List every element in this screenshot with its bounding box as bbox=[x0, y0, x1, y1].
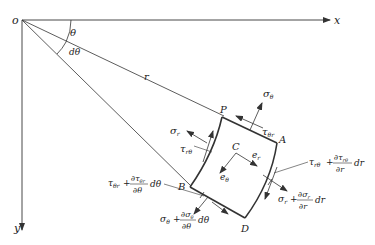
sigma-r-plus-expression: σr + ∂σr ∂r dr bbox=[278, 190, 326, 211]
bottom-face-stresses: τθr + ∂τθr ∂θ dθ σθ + ∂σθ ∂θ dθ bbox=[108, 174, 228, 231]
dtheta-label: dθ bbox=[69, 47, 81, 57]
sigma-theta-plus-expression: σθ + ∂σθ ∂θ dθ bbox=[160, 210, 210, 231]
radius-line-bottom bbox=[22, 20, 191, 186]
svg-text:∂θ: ∂θ bbox=[182, 222, 191, 231]
svg-text:dθ: dθ bbox=[198, 215, 210, 225]
sigma-theta-arrow bbox=[250, 103, 262, 130]
e-theta-arrow bbox=[220, 153, 236, 173]
svg-text:dθ: dθ bbox=[150, 179, 162, 189]
svg-text:τθr: τθr bbox=[108, 178, 121, 189]
point-D-label: D bbox=[240, 223, 249, 234]
point-B-label: B bbox=[177, 181, 185, 192]
tau-r-theta-label: τrθ bbox=[180, 143, 192, 155]
svg-text:∂θ: ∂θ bbox=[133, 186, 142, 195]
sigma-theta-label: σθ bbox=[263, 88, 274, 100]
svg-text:+: + bbox=[326, 157, 334, 167]
e-r-label: er bbox=[252, 150, 261, 161]
svg-text:dr: dr bbox=[315, 195, 326, 205]
svg-text:∂σr: ∂σr bbox=[298, 190, 311, 200]
dtheta-arc bbox=[57, 42, 66, 54]
edge-PA bbox=[222, 117, 277, 143]
x-axis-label: x bbox=[334, 14, 341, 27]
e-theta-label: eθ bbox=[220, 172, 229, 183]
svg-text:∂r: ∂r bbox=[336, 165, 345, 174]
y-axis-label: y bbox=[13, 222, 21, 235]
tau-r-theta-plus-expression: τrθ + ∂τrθ ∂r dr bbox=[309, 153, 365, 174]
edge-BD bbox=[190, 187, 245, 218]
point-C-label: C bbox=[232, 141, 240, 152]
theta-label: θ bbox=[70, 27, 76, 38]
radial-lines: r bbox=[22, 20, 224, 186]
sigma-r-arrow bbox=[187, 131, 207, 143]
tau-theta-r-label: τθr bbox=[262, 126, 275, 138]
svg-text:σr: σr bbox=[278, 194, 288, 205]
unit-vectors: er eθ bbox=[220, 150, 261, 183]
sigma-theta-plus-arrow bbox=[194, 197, 208, 214]
svg-text:∂τθr: ∂τθr bbox=[131, 174, 146, 184]
polar-stress-element-diagram: o x y r θ dθ P A B D C er eθ σr bbox=[0, 0, 375, 245]
sigma-r-label: σr bbox=[170, 125, 181, 137]
svg-text:∂r: ∂r bbox=[299, 202, 308, 211]
inner-face-stresses: σr τrθ bbox=[170, 125, 213, 162]
tau-r-theta-tick bbox=[194, 146, 212, 152]
tau-theta-r-plus-expression: τθr + ∂τθr ∂θ dθ bbox=[108, 174, 162, 195]
origin-label: o bbox=[12, 14, 19, 27]
point-A-label: A bbox=[278, 134, 286, 145]
tau-r-theta-plus-leader bbox=[274, 162, 308, 173]
svg-text:dr: dr bbox=[354, 158, 365, 168]
svg-text:+: + bbox=[173, 214, 181, 224]
point-P-label: P bbox=[219, 104, 227, 115]
top-face-stresses: σθ τθr bbox=[236, 88, 275, 138]
svg-text:σθ: σθ bbox=[160, 214, 170, 225]
radius-line-top bbox=[22, 20, 224, 116]
svg-text:∂τrθ: ∂τrθ bbox=[334, 153, 348, 163]
svg-text:+: + bbox=[290, 194, 298, 204]
svg-text:τrθ: τrθ bbox=[309, 157, 321, 168]
sigma-r-plus-arrow bbox=[263, 175, 287, 191]
svg-text:∂σθ: ∂σθ bbox=[181, 210, 194, 220]
svg-text:+: + bbox=[123, 178, 131, 188]
outer-face-stresses: τrθ + ∂τrθ ∂r dr σr + ∂σr ∂r dr bbox=[263, 153, 365, 211]
